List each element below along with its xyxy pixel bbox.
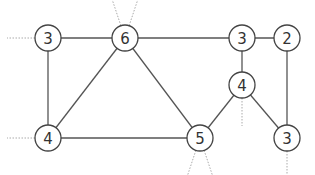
node-n8: 3 xyxy=(274,125,300,151)
node-n7: 5 xyxy=(187,125,213,151)
graph-nodes: 36324453 xyxy=(35,25,300,151)
node-label: 3 xyxy=(43,30,53,48)
node-label: 6 xyxy=(120,30,130,48)
node-label: 3 xyxy=(282,130,292,148)
node-n4: 2 xyxy=(274,25,300,51)
edge-n2-n6 xyxy=(48,38,125,138)
edge-n2-n7 xyxy=(125,38,200,138)
node-n5: 4 xyxy=(229,72,255,98)
node-label: 3 xyxy=(237,30,247,48)
dangling-edge xyxy=(204,150,214,175)
node-label: 4 xyxy=(43,130,53,148)
node-n2: 6 xyxy=(112,25,138,51)
dangling-edge xyxy=(111,0,121,26)
dangling-edge xyxy=(129,0,139,26)
node-label: 4 xyxy=(237,77,247,95)
node-label: 2 xyxy=(282,30,292,48)
node-n1: 3 xyxy=(35,25,61,51)
node-n3: 3 xyxy=(229,25,255,51)
graph-diagram: 36324453 xyxy=(0,0,315,175)
node-n6: 4 xyxy=(35,125,61,151)
dangling-edge xyxy=(186,150,196,175)
node-label: 5 xyxy=(195,130,205,148)
